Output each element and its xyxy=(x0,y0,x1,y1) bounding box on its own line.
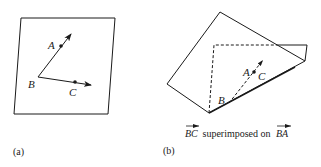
label-c-b: C xyxy=(258,70,266,82)
label-a: A xyxy=(47,39,55,51)
figure-canvas: A B C (a) A C B BC superimposed on BA (b… xyxy=(0,0,321,167)
caption: BC superimposed on BA xyxy=(185,126,291,139)
label-a-b: A xyxy=(242,66,250,78)
caption-vec-ba: BA xyxy=(276,128,289,139)
panel-b-label: (b) xyxy=(163,145,175,157)
label-b: B xyxy=(28,78,35,90)
point-ac-dot xyxy=(252,70,256,74)
point-a-dot xyxy=(59,44,63,48)
plane-a xyxy=(14,18,115,114)
ray-bc xyxy=(38,77,91,85)
panel-a-label: (a) xyxy=(13,146,24,158)
caption-text: superimposed on xyxy=(200,128,273,139)
point-c-dot xyxy=(73,80,77,84)
panel-a: A B C (a) xyxy=(13,18,115,158)
panel-b: A C B BC superimposed on BA (b) xyxy=(163,12,307,157)
caption-vec-bc: BC xyxy=(185,128,198,139)
label-b-b: B xyxy=(218,94,225,106)
label-c: C xyxy=(69,86,77,98)
